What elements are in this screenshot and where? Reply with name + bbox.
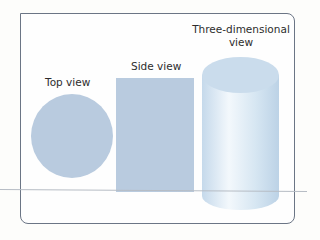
side-view-rectangle xyxy=(116,78,194,192)
three-d-cylinder xyxy=(202,57,279,210)
top-view-label: Top view xyxy=(45,76,90,89)
three-d-view-label-line2: view xyxy=(192,36,290,49)
side-view-label: Side view xyxy=(131,60,181,73)
top-view-circle xyxy=(31,94,113,178)
three-d-view-label: Three-dimensional view xyxy=(192,23,290,49)
three-d-view-label-line1: Three-dimensional xyxy=(192,23,290,36)
